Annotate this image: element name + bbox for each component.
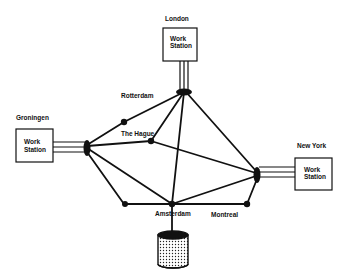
workstation-groningen: Groningen Work Station <box>16 114 91 162</box>
node-dot-hague <box>148 138 154 144</box>
city-label-newyork: New York <box>297 142 326 149</box>
network-diagram: London Work Station Groningen Work Stati… <box>0 0 351 279</box>
workstation-label-line1: Work <box>304 166 321 173</box>
city-label-london: London <box>165 15 189 22</box>
city-label-groningen: Groningen <box>16 114 49 122</box>
database-cylinder <box>158 231 188 268</box>
link-montreal-newyork <box>247 179 257 204</box>
node-rotterdam: Rotterdam <box>121 92 154 125</box>
node-unnamed <box>122 201 128 207</box>
link-hague-newyork <box>151 141 256 173</box>
node-label-rotterdam: Rotterdam <box>121 92 154 99</box>
link-london-newyork <box>186 92 256 171</box>
database-body <box>158 235 188 268</box>
node-label-hague: The Hague <box>121 130 155 138</box>
link-groningen-amsterdam <box>87 148 172 204</box>
node-label-montreal: Montreal <box>211 211 238 218</box>
link-rotterdam-groningen <box>87 122 124 145</box>
link-groningen-hague <box>87 141 151 146</box>
workstation-label-line2: Station <box>170 42 192 49</box>
workstation-label-line1: Work <box>24 138 41 145</box>
database-top <box>158 231 188 239</box>
hub-newyork <box>254 167 261 183</box>
workstation-label-line2: Station <box>304 173 326 180</box>
workstation-newyork: New York Work Station <box>254 142 333 190</box>
workstation-label-line1: Work <box>170 35 187 42</box>
node-dot-montreal <box>244 201 250 207</box>
workstation-london: London Work Station <box>163 15 197 96</box>
node-dot-unnamed <box>122 201 128 207</box>
workstation-label-line2: Station <box>24 146 46 153</box>
hub-groningen <box>84 140 91 156</box>
node-dot-amsterdam <box>169 201 175 207</box>
node-label-amsterdam: Amsterdam <box>155 210 191 217</box>
link-amsterdam-newyork <box>172 176 256 204</box>
hub-london <box>176 89 192 96</box>
node-dot-rotterdam <box>121 119 127 125</box>
